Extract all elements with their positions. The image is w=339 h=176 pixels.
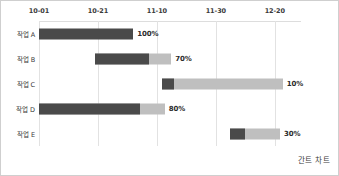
task-bar-2[interactable]: [162, 78, 283, 89]
gantt-row-2[interactable]: 작업 C 10%: [39, 71, 301, 96]
task-label-1: 작업 B: [17, 54, 35, 64]
task-progress-fill-3: [39, 103, 140, 114]
axis-tick-0: 10-01: [29, 7, 49, 15]
task-bar-3[interactable]: [39, 103, 165, 114]
chart-caption: 간트 차트: [298, 154, 330, 165]
task-progress-label-2: 10%: [287, 80, 303, 88]
task-bar-4[interactable]: [230, 128, 280, 139]
task-label-3: 작업 D: [16, 104, 35, 114]
gantt-row-3[interactable]: 작업 D 80%: [39, 96, 301, 121]
task-progress-fill-1: [95, 53, 148, 64]
task-progress-fill-0: [39, 28, 133, 39]
task-progress-label-0: 100%: [137, 30, 158, 38]
gantt-chart-panel: 10-01 10-21 11-10 11-30 12-20 작업 A 100% …: [0, 0, 339, 176]
task-label-0: 작업 A: [17, 29, 35, 39]
task-progress-fill-4: [230, 128, 245, 139]
axis-tick-4: 12-20: [265, 7, 285, 15]
task-bar-0[interactable]: [39, 28, 133, 39]
axis-tick-3: 11-30: [206, 7, 226, 15]
gantt-row-0[interactable]: 작업 A 100%: [39, 21, 301, 46]
task-progress-fill-2: [162, 78, 174, 89]
plot-area: 작업 A 100% 작업 B 70% 작업 C 10% 작업 D: [39, 21, 301, 146]
task-progress-label-3: 80%: [169, 105, 185, 113]
gantt-row-1[interactable]: 작업 B 70%: [39, 46, 301, 71]
task-bar-1[interactable]: [95, 53, 171, 64]
date-axis: 10-01 10-21 11-10 11-30 12-20: [1, 1, 339, 21]
gantt-row-4[interactable]: 작업 E 30%: [39, 121, 301, 146]
task-label-4: 작업 E: [17, 129, 35, 139]
task-progress-label-4: 30%: [284, 130, 300, 138]
task-progress-label-1: 70%: [175, 55, 191, 63]
axis-tick-2: 11-10: [147, 7, 167, 15]
task-label-2: 작업 C: [17, 79, 35, 89]
axis-tick-1: 10-21: [88, 7, 108, 15]
